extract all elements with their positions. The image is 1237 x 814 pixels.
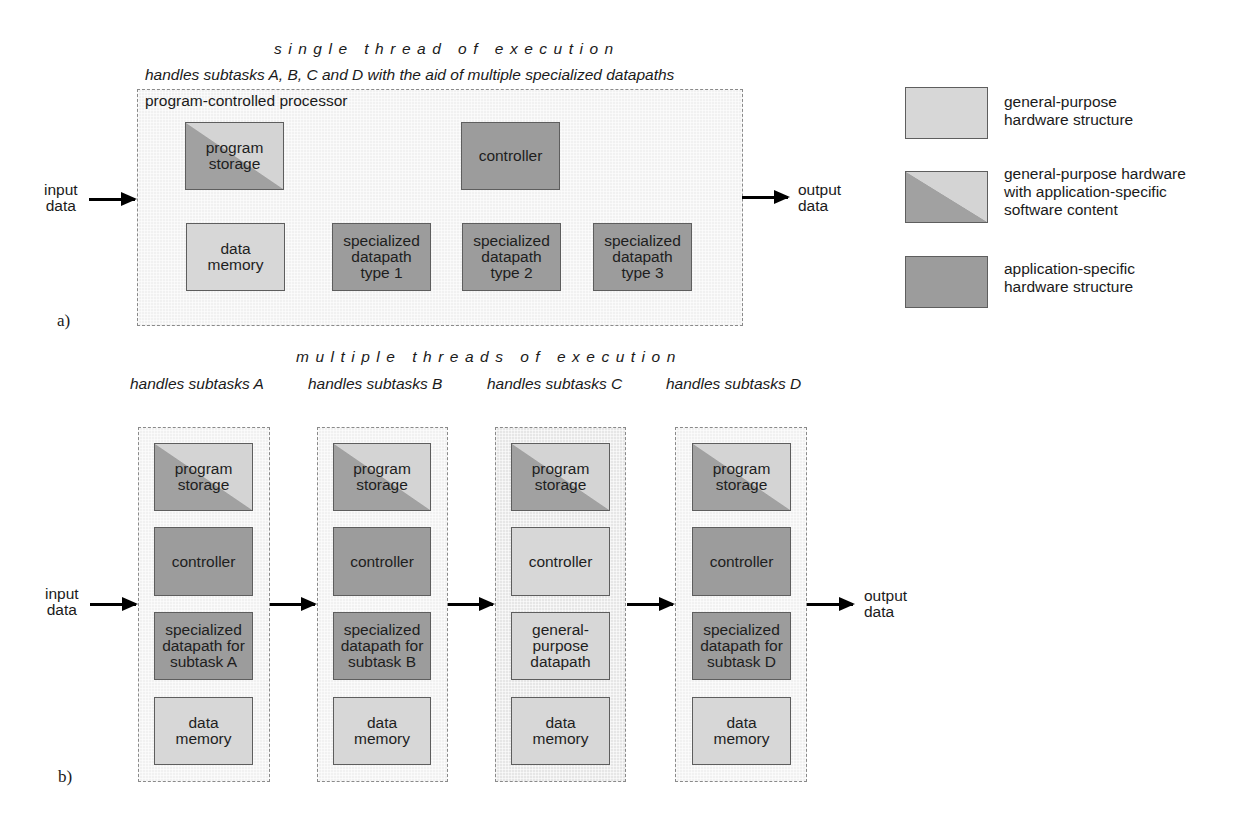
arrow-a-to-b-icon <box>270 603 315 606</box>
arrow-b-to-c-icon <box>448 603 493 606</box>
datapath-type-3-block: specialized datapath type 3 <box>593 223 692 291</box>
b-output-arrow-icon <box>807 603 853 606</box>
column-d-program-storage: program storage <box>692 443 791 511</box>
column-c-program-storage-label: program storage <box>532 461 590 493</box>
column-c-program-storage: program storage <box>511 443 610 511</box>
input-data-label: input data <box>44 182 78 214</box>
legend-swatch-application-specific <box>905 256 988 308</box>
column-c-data-memory: data memory <box>511 697 610 765</box>
datapath-type-1-label: specialized datapath type 1 <box>343 233 420 281</box>
part-a-tag: a) <box>57 311 70 331</box>
column-c-datapath: general- purpose datapath <box>511 612 610 680</box>
column-d-data-memory: data memory <box>692 697 791 765</box>
part-b-tag: b) <box>58 767 72 787</box>
column-b-datapath: specialized datapath for subtask B <box>333 612 431 680</box>
program-storage-label: program storage <box>206 140 264 172</box>
column-c-controller-label: controller <box>529 554 593 570</box>
column-d-controller-label: controller <box>710 554 774 570</box>
data-memory-label: data memory <box>208 241 264 273</box>
column-b-program-storage: program storage <box>333 443 431 511</box>
legend-swatch-mixed <box>905 171 988 223</box>
datapath-type-1-block: specialized datapath type 1 <box>332 223 431 291</box>
b-input-data-label: input data <box>45 586 79 618</box>
column-d-program-storage-label: program storage <box>713 461 771 493</box>
column-d-controller: controller <box>692 527 791 596</box>
column-b-datapath-label: specialized datapath for subtask B <box>341 622 424 670</box>
b-output-data-label: output data <box>864 588 907 620</box>
part-a-title: single thread of execution <box>274 40 620 58</box>
data-memory-block: data memory <box>186 223 285 291</box>
column-d-datapath-label: specialized datapath for subtask D <box>700 622 783 670</box>
column-a-data-memory-label: data memory <box>176 715 232 747</box>
arrow-c-to-d-icon <box>627 603 673 606</box>
column-d-title: handles subtasks D <box>666 375 801 393</box>
column-a-program-storage-label: program storage <box>175 461 233 493</box>
column-d-datapath: specialized datapath for subtask D <box>692 612 791 680</box>
column-a-datapath: specialized datapath for subtask A <box>154 612 253 680</box>
legend-label-mixed: general-purpose hardware with applicatio… <box>1004 165 1186 219</box>
column-b-program-storage-label: program storage <box>353 461 411 493</box>
column-d-data-memory-label: data memory <box>714 715 770 747</box>
controller-label: controller <box>479 148 543 164</box>
column-a-controller: controller <box>154 527 253 596</box>
column-b-data-memory: data memory <box>333 697 431 765</box>
controller-block: controller <box>461 122 560 190</box>
column-c-controller: controller <box>511 527 610 596</box>
column-b-controller-label: controller <box>350 554 414 570</box>
column-c-title: handles subtasks C <box>487 375 622 393</box>
column-a-program-storage: program storage <box>154 443 253 511</box>
part-a-subtitle: handles subtasks A, B, C and D with the … <box>145 66 674 84</box>
column-a-title: handles subtasks A <box>130 375 264 393</box>
program-storage-block: program storage <box>185 122 284 190</box>
datapath-type-3-label: specialized datapath type 3 <box>604 233 681 281</box>
column-b-controller: controller <box>333 527 431 596</box>
output-data-label: output data <box>798 182 841 214</box>
column-c-datapath-label: general- purpose datapath <box>530 622 590 670</box>
input-arrow-icon <box>89 198 135 201</box>
output-arrow-icon <box>742 196 788 199</box>
legend-label-application-specific: application-specific hardware structure <box>1004 260 1135 296</box>
legend-label-general-purpose: general-purpose hardware structure <box>1004 93 1133 129</box>
column-b-title: handles subtasks B <box>308 375 442 393</box>
column-a-data-memory: data memory <box>154 697 253 765</box>
part-b-title: multiple threads of execution <box>296 348 682 366</box>
column-b-data-memory-label: data memory <box>354 715 410 747</box>
datapath-type-2-block: specialized datapath type 2 <box>462 223 561 291</box>
column-c-data-memory-label: data memory <box>533 715 589 747</box>
column-a-datapath-label: specialized datapath for subtask A <box>162 622 245 670</box>
container-label: program-controlled processor <box>145 93 347 109</box>
datapath-type-2-label: specialized datapath type 2 <box>473 233 550 281</box>
column-a-controller-label: controller <box>172 554 236 570</box>
b-input-arrow-icon <box>90 603 136 606</box>
legend-swatch-general-purpose <box>905 87 988 139</box>
